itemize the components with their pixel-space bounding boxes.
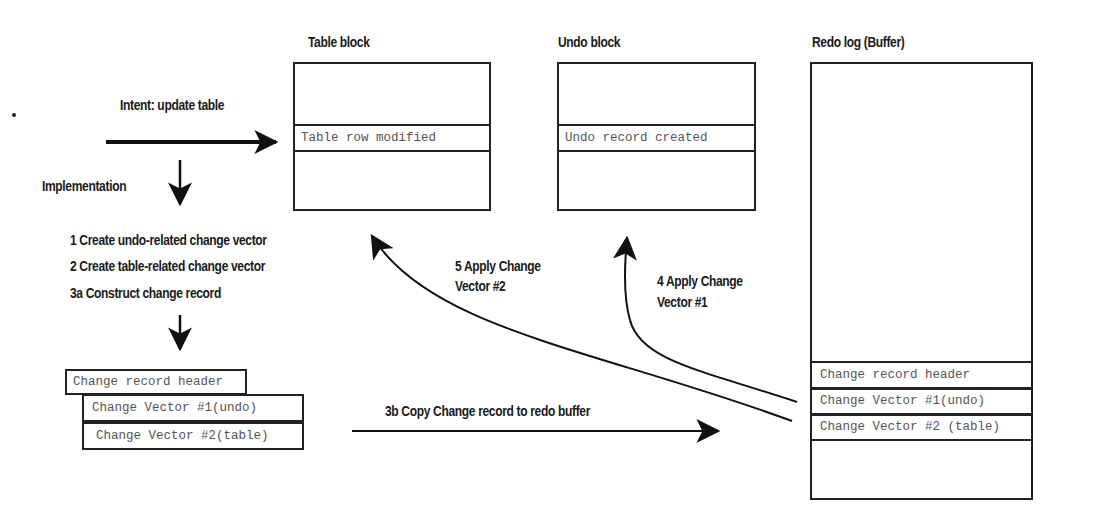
implementation-label: Implementation <box>42 177 126 195</box>
redo-change-vector-2: Change Vector #2 (table) <box>810 414 1033 441</box>
redo-change-vector-1: Change Vector #1(undo) <box>810 388 1033 415</box>
apply-vector2-label-line1: 5 Apply Change <box>455 257 541 275</box>
undo-record-created: Undo record created <box>557 124 756 152</box>
redo-log-title: Redo log (Buffer) <box>812 33 904 51</box>
intent-label: Intent: update table <box>120 96 224 114</box>
step-1: 1 Create undo-related change vector <box>70 231 267 249</box>
table-row-modified: Table row modified <box>293 124 491 152</box>
apply-vector1-label-line1: 4 Apply Change <box>657 272 743 290</box>
step-3a: 3a Construct change record <box>70 284 221 302</box>
apply-vector2-arrow <box>372 236 792 421</box>
redo-change-record-header: Change record header <box>810 361 1033 389</box>
apply-vector1-label-line2: Vector #1 <box>657 293 707 311</box>
apply-vector1-arrow <box>625 238 797 402</box>
change-vector-2: Change Vector #2(table) <box>82 422 304 450</box>
change-record-header: Change record header <box>65 369 247 395</box>
undo-block-title: Undo block <box>558 33 620 51</box>
table-block-title: Table block <box>308 33 370 51</box>
copy-label: 3b Copy Change record to redo buffer <box>385 402 590 420</box>
step-2: 2 Create table-related change vector <box>70 257 265 275</box>
change-vector-1: Change Vector #1(undo) <box>82 394 304 422</box>
apply-vector2-label-line2: Vector #2 <box>455 277 505 295</box>
